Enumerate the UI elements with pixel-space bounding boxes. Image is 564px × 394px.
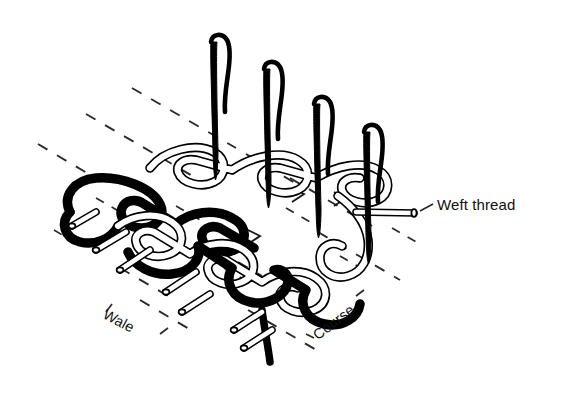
- weft-thread-cut-end: [411, 209, 416, 217]
- weft-thread-fill: [356, 212, 414, 213]
- figure-canvas: .dk { fill:none; stroke:#000; stroke-wid…: [0, 0, 564, 394]
- label-weft-thread: Weft thread: [437, 196, 515, 213]
